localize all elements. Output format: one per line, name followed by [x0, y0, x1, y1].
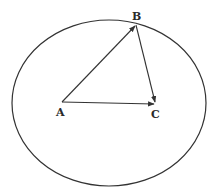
- vector-a-to-c: [62, 102, 154, 104]
- vector-diagram: [0, 0, 214, 195]
- vector-b-to-c: [136, 25, 155, 102]
- vector-a-to-b: [62, 26, 135, 102]
- diagram-canvas: A B C: [0, 0, 214, 195]
- point-label-c: C: [151, 109, 160, 120]
- point-label-a: A: [56, 107, 65, 118]
- point-label-b: B: [132, 11, 141, 22]
